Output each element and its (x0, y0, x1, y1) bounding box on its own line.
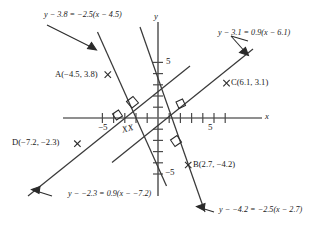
y-tick-label-negative-5: −5 (165, 168, 175, 177)
y-axis-label: y (154, 12, 158, 21)
point-label-c: C(6.1, 3.1) (231, 78, 268, 87)
x-axis-label: x (265, 112, 269, 121)
point-label-a: A(−4.5, 3.8) (55, 70, 98, 79)
figure-canvas: y − 3.8 = −2.5(x − 4.5) y − 3.1 = 0.9(x … (0, 0, 332, 236)
right-angle-marks (113, 97, 186, 147)
y-tick-label-5: 5 (166, 57, 171, 66)
x-tick-label-negative-5: −5 (98, 123, 108, 132)
equation-label-line-b: y − −4.2 = −2.5(x − 2.7) (219, 206, 302, 214)
line-through-c (112, 49, 253, 163)
line-through-a (98, 32, 167, 186)
equation-label-line-d: y − −2.3 = 0.9(x − −7.2) (68, 190, 151, 198)
equation-label-line-c: y − 3.1 = 0.9(x − 6.1) (218, 29, 290, 37)
point-label-d: D(−7.2, −2.3) (12, 138, 59, 147)
point-label-b: B(2.7, −4.2) (193, 160, 235, 169)
line-through-b (140, 27, 205, 212)
equation-label-line-a: y − 3.8 = −2.5(x − 4.5) (44, 11, 122, 19)
x-tick-label-5: 5 (208, 123, 213, 132)
